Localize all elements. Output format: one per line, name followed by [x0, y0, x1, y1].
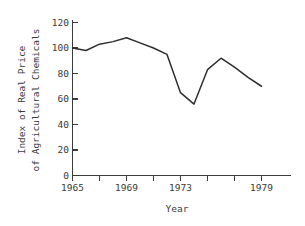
x-tick-label-1965: 1965	[61, 182, 84, 193]
x-tick-label-1973: 1973	[169, 182, 192, 193]
x-tick-label-1979: 1979	[250, 182, 273, 193]
x-axis-title: Year	[166, 203, 189, 214]
y-tick-label-120: 120	[52, 17, 69, 28]
y-axis-title-line2: of Agricultural Chemicals	[30, 29, 41, 172]
y-tick-label-60: 60	[58, 93, 70, 104]
y-tick-label-80: 80	[58, 68, 70, 79]
chart-figure: 0 20 40 60 80 100 120 1965 1969 1973 197…	[0, 0, 305, 226]
y-tick-label-0: 0	[63, 170, 69, 181]
y-tick-label-40: 40	[58, 119, 70, 130]
x-tick-label-1969: 1969	[115, 182, 138, 193]
y-tick-label-100: 100	[52, 42, 69, 53]
line-chart-svg: 0 20 40 60 80 100 120 1965 1969 1973 197…	[0, 0, 305, 226]
y-tick-label-20: 20	[58, 144, 70, 155]
y-axis-title-line1: Index of Real Price	[16, 45, 27, 154]
